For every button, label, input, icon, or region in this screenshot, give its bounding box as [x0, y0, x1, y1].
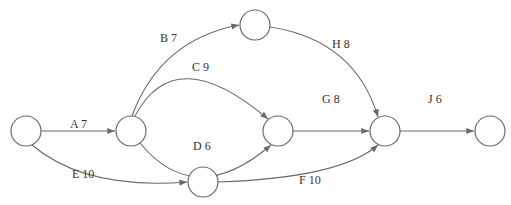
node-5	[370, 116, 400, 146]
node-2	[116, 116, 146, 146]
edge-label-b: B 7	[160, 31, 177, 45]
edge-label-c: C 9	[192, 60, 209, 74]
edge-label-h: H 8	[332, 37, 350, 51]
node-7	[188, 167, 218, 197]
node-1	[11, 116, 41, 146]
edge-label-f: F 10	[299, 173, 321, 187]
edge-b	[132, 25, 239, 116]
edge-c	[135, 79, 268, 119]
node-3	[240, 10, 270, 40]
edge-label-g: G 8	[322, 92, 340, 106]
edge-label-d: D 6	[193, 139, 211, 153]
edge-label-a: A 7	[70, 117, 87, 131]
network-diagram: A 7 B 7 C 9 D 6 E 10 F 10 G 8 H 8 J 6	[0, 0, 511, 205]
edge-label-e: E 10	[72, 167, 94, 181]
edge-f	[218, 145, 378, 182]
edge-e	[32, 145, 187, 183]
node-6	[475, 116, 505, 146]
node-4	[263, 116, 293, 146]
edge-label-j: J 6	[428, 92, 442, 106]
